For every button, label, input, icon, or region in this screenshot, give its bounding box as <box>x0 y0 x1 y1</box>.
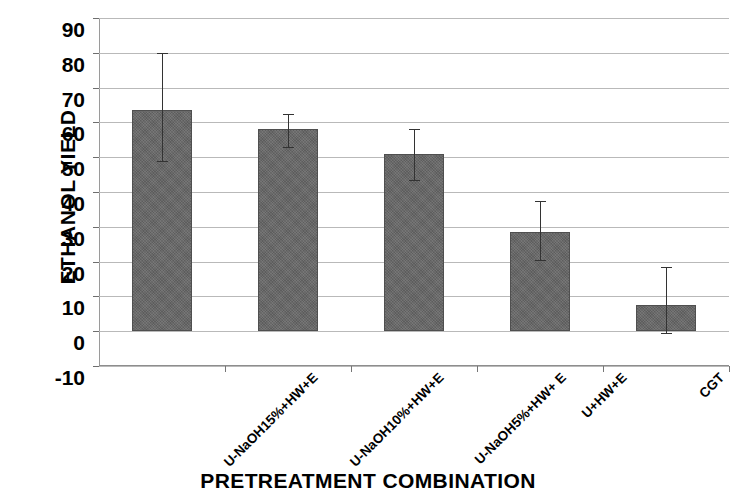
ethanol-yield-bar-chart: ETHANOL YIELD 9080706050403020100-10 U-N… <box>0 0 736 498</box>
y-tick-label-text: 20 <box>62 262 85 286</box>
error-bar-cap-upper <box>157 53 168 54</box>
y-tick-label-text: 60 <box>62 122 85 146</box>
y-tick-label-text: 50 <box>62 157 85 181</box>
error-bar <box>162 53 163 161</box>
error-bar-cap-lower <box>409 180 420 181</box>
error-bar-cap-upper <box>409 129 420 130</box>
error-bar-cap-upper <box>535 201 546 202</box>
y-tick-mark <box>93 366 99 367</box>
error-bar-cap-lower <box>283 147 294 148</box>
y-tick-label-text: 90 <box>62 18 85 42</box>
error-bar <box>540 201 541 260</box>
y-tick-label-text: 0 <box>73 331 85 355</box>
y-tick-label-text: 80 <box>62 53 85 77</box>
error-bar-cap-upper <box>661 267 672 268</box>
x-category-label: U+HW+E <box>579 370 630 421</box>
error-bar <box>414 129 415 179</box>
plot-area: 9080706050403020100-10 <box>99 18 729 366</box>
y-tick-label-text: 10 <box>62 296 85 320</box>
gridline <box>99 366 729 367</box>
x-category-label: CGT <box>696 370 727 401</box>
error-bar-cap-lower <box>157 161 168 162</box>
x-tick-mark <box>729 366 730 372</box>
error-bar <box>666 267 667 333</box>
error-bar-cap-upper <box>283 114 294 115</box>
error-bar-cap-lower <box>535 260 546 261</box>
bar <box>258 129 318 331</box>
y-tick-label-text: 30 <box>62 227 85 251</box>
error-bar-cap-lower <box>661 333 672 334</box>
x-category-label: U-NaOH10%+HW+E <box>347 370 447 470</box>
x-axis-title: PRETREATMENT COMBINATION <box>0 469 736 493</box>
x-category-label: U-NaOH15%+HW+E <box>221 370 321 470</box>
error-bar <box>288 114 289 147</box>
x-category-label: U-NaOH5%+HW+ E <box>472 370 569 467</box>
y-tick-label-text: 40 <box>62 192 85 216</box>
x-axis-category-labels: U-NaOH15%+HW+EU-NaOH10%+HW+EU-NaOH5%+HW+… <box>99 370 729 470</box>
y-tick-label-text: 70 <box>62 88 85 112</box>
y-tick-label-text: -10 <box>55 366 85 390</box>
